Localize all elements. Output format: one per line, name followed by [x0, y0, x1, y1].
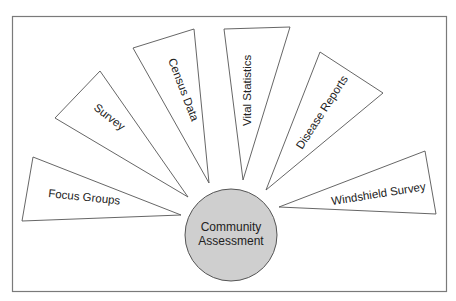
spoke-label: Vital Statistics [241, 54, 253, 126]
hub-label-line1: Community [201, 220, 262, 234]
community-assessment-diagram: Focus Groups Survey Census Data Vital St… [0, 0, 456, 301]
hub-label-line2: Assessment [198, 234, 264, 248]
hub-community-assessment: Community Assessment [185, 189, 277, 281]
